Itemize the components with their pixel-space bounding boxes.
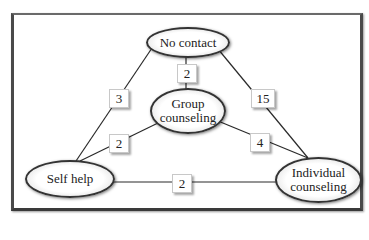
node-individual-counseling-label-1: Individual (292, 166, 345, 180)
node-individual-counseling-label-2: counseling (290, 180, 346, 194)
node-self-help: Self help (25, 160, 115, 198)
node-self-help-label: Self help (47, 172, 94, 186)
node-no-contact-label: No contact (160, 36, 217, 50)
edge-weight-self-help-individual: 2 (172, 174, 192, 193)
edge-weight-no-contact-individual: 15 (251, 89, 275, 108)
edge-weight-group-self-help: 2 (109, 134, 129, 153)
node-group-counseling-label-2: counseling (160, 111, 216, 125)
node-group-counseling: Group counseling (150, 88, 226, 134)
edge-weight-no-contact-self-help: 3 (109, 89, 129, 108)
edge-weight-no-contact-group: 2 (177, 64, 197, 83)
edge-weight-group-individual: 4 (250, 133, 270, 152)
node-individual-counseling: Individual counseling (275, 157, 362, 203)
node-no-contact: No contact (146, 27, 230, 58)
node-group-counseling-label-1: Group (171, 97, 204, 111)
